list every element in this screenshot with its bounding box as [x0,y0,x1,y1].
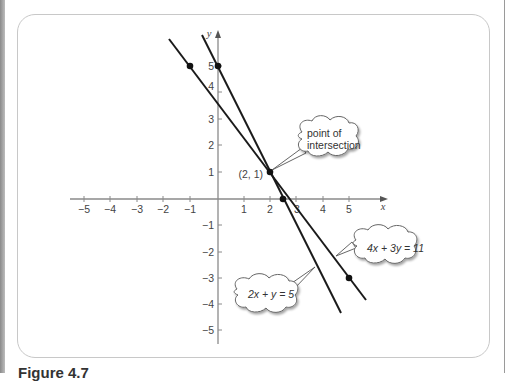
callout-intersection: point of intersection [272,116,361,170]
axes: −5 −4 −3 −2 −1 1 2 3 4 5 x 5 4 3 2 1 −1 … [70,28,388,344]
x-tick-label: −3 [131,203,143,215]
y-axis-arrow-icon [215,30,221,38]
point-5-neg3 [346,275,353,282]
figure-caption: Figure 4.7 [18,364,89,381]
y-tick-label: 5 [208,60,214,72]
y-tick-label: −1 [202,219,214,231]
x-tick-label: −2 [157,203,169,215]
y-tick-label: 4 [208,80,214,92]
line-4x-3y-11 [169,39,366,300]
point-2.5-0 [280,196,287,203]
y-tick-label: −5 [202,324,214,336]
y-tick-label: −3 [202,272,214,284]
x-tick-label: 4 [320,203,326,215]
x-tick-label: −1 [184,203,196,215]
callout-line-2x-y-5-text: 2x + y = 5 [247,288,294,300]
x-tick-labels: −5 −4 −3 −2 −1 1 2 3 4 5 [78,203,352,215]
y-tick-label: 2 [208,139,214,151]
point-neg1-5 [187,63,194,70]
callout-line-4x-3y-11: 4x + 3y = 11 [336,225,424,264]
x-tick-label: 1 [241,203,247,215]
callout-intersection-line1: point of [307,127,342,139]
y-tick-label: −4 [202,298,214,310]
x-tick-label: 2 [267,203,273,215]
x-axis-label: x [380,201,386,212]
y-tick-label: 1 [208,166,214,178]
x-tick-label: −4 [104,203,116,215]
callout-intersection-line2: intersection [307,139,361,151]
y-tick-label: −2 [202,246,214,258]
y-tick-label: 3 [208,113,214,125]
y-axis-label: y [206,28,212,39]
callout-line-4x-3y-11-text: 4x + 3y = 11 [367,242,424,254]
intersection-coordinate-label: (2, 1) [238,168,263,180]
y-tick-labels: 5 4 3 2 1 −1 −2 −3 −4 −5 [202,60,214,336]
point-0-5 [215,63,222,70]
x-tick-label: 5 [346,203,352,215]
callout-line-2x-y-5: 2x + y = 5 [234,267,315,312]
x-tick-label: −5 [78,203,90,215]
